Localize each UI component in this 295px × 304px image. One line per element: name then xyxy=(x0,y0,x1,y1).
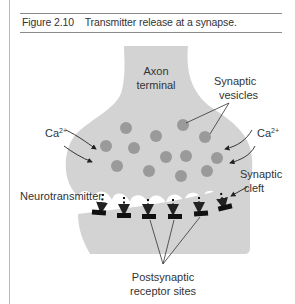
label-axon: Axon xyxy=(143,65,168,77)
synapse-diagram: Axon terminal Synaptic vesicles Ca2+ Ca2… xyxy=(0,0,295,304)
label-synaptic-cleft-2: cleft xyxy=(244,182,264,194)
label-ca-left: Ca2+ xyxy=(45,127,67,139)
label-synaptic-vesicles-2: vesicles xyxy=(219,89,259,101)
label-receptor-sites: receptor sites xyxy=(130,285,197,297)
label-neurotransmitter: Neurotransmitter xyxy=(20,190,102,202)
label-synaptic-vesicles-1: Synaptic xyxy=(214,75,257,87)
label-ca-right: Ca2+ xyxy=(257,127,279,139)
label-synaptic-cleft-1: Synaptic xyxy=(240,168,283,180)
label-terminal: terminal xyxy=(136,79,175,91)
label-postsynaptic: Postsynaptic xyxy=(132,271,195,283)
